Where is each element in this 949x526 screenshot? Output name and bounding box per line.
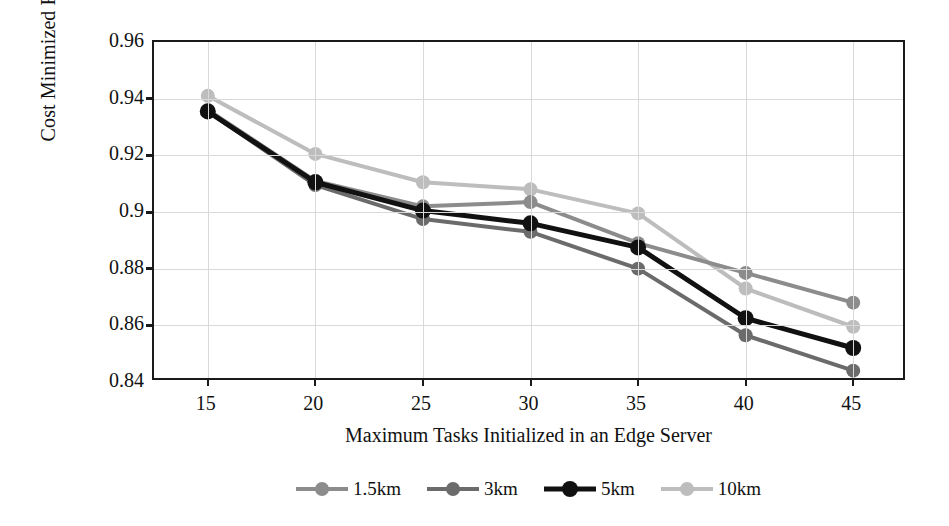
y-gridline [154,269,903,270]
legend-label: 1.5km [353,478,401,500]
y-gridline [154,212,903,213]
y-gridline [154,99,903,100]
legend-item-3km[interactable]: 3km [427,478,518,500]
x-gridline [423,42,424,378]
x-axis-tick-label: 45 [811,392,891,415]
x-axis-tick-mark [637,378,639,386]
x-axis-tick-label: 25 [381,392,461,415]
x-axis-tick-mark [530,378,532,386]
y-gridline [154,325,903,326]
x-axis-tick-label: 20 [273,392,353,415]
chart-figure: Cost Minimized Ratio 0.960.940.920.90.88… [0,0,949,526]
legend-swatch-icon [296,482,348,496]
x-axis-tick-mark [422,378,424,386]
y-axis-tick-label: 0.84 [56,370,144,390]
y-axis-tick-labels: 0.960.940.920.90.880.860.84 [40,0,144,526]
y-axis-tick-mark [146,154,154,157]
x-axis-tick-mark [852,378,854,386]
y-axis-tick-label: 0.88 [56,257,144,277]
x-gridline [208,42,209,378]
x-axis-tick-mark [314,378,316,386]
legend-marker-dot [680,482,694,496]
x-axis-tick-label: 40 [704,392,784,415]
legend-item-5km[interactable]: 5km [544,478,635,500]
y-axis-tick-label: 0.92 [56,143,144,163]
legend-marker-dot [446,482,460,496]
legend-marker-dot [562,481,578,497]
legend-swatch-icon [427,482,479,496]
plot-area [152,40,905,380]
y-gridline [154,155,903,156]
x-axis-tick-mark [745,378,747,386]
x-gridline [638,42,639,378]
y-axis-tick-label: 0.96 [56,30,144,50]
x-axis-tick-label: 15 [166,392,246,415]
legend-label: 10km [718,478,761,500]
legend-label: 5km [601,478,635,500]
chart-legend: 1.5km3km5km10km [152,478,905,500]
legend-item-1.5km[interactable]: 1.5km [296,478,401,500]
legend-label: 3km [484,478,518,500]
y-axis-tick-mark [146,97,154,100]
y-axis-tick-label: 0.94 [56,87,144,107]
legend-swatch-icon [544,482,596,496]
y-axis-tick-mark [146,211,154,214]
x-axis-tick-mark [207,378,209,386]
legend-marker-dot [315,482,329,496]
y-axis-tick-label: 0.86 [56,313,144,333]
x-axis-tick-label: 35 [596,392,676,415]
x-axis-title: Maximum Tasks Initialized in an Edge Ser… [152,424,905,447]
x-gridline [746,42,747,378]
y-axis-tick-label: 0.9 [56,200,144,220]
x-gridline [853,42,854,378]
x-gridline [315,42,316,378]
y-axis-tick-mark [146,324,154,327]
y-axis-tick-mark [146,267,154,270]
legend-swatch-icon [661,482,713,496]
legend-item-10km[interactable]: 10km [661,478,761,500]
x-axis-tick-label: 30 [489,392,569,415]
x-gridline [531,42,532,378]
